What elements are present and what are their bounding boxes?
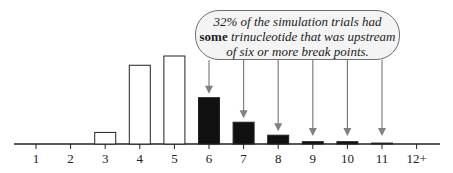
arrow-head-icon <box>309 128 317 136</box>
bar <box>372 143 393 144</box>
annotation-line-3: of six or more break points. <box>196 44 399 59</box>
bar <box>302 142 323 144</box>
bar <box>95 132 116 144</box>
annotation-emphasis: some <box>200 29 228 44</box>
x-tick-label: 5 <box>159 151 189 167</box>
x-tick-label: 2 <box>56 151 86 167</box>
x-tick-label: 4 <box>125 151 155 167</box>
x-tick-label: 3 <box>90 151 120 167</box>
x-tick-label: 1 <box>21 151 51 167</box>
arrow-head-icon <box>205 86 213 94</box>
x-tick-label: 8 <box>263 151 293 167</box>
annotation-line-1: 32% of the simulation trials had <box>196 14 399 29</box>
bar <box>337 142 358 144</box>
x-tick-label: 6 <box>194 151 224 167</box>
arrow-head-icon <box>343 128 351 136</box>
arrow-head-icon <box>240 110 248 118</box>
x-tick-label: 7 <box>229 151 259 167</box>
x-tick-label: 9 <box>298 151 328 167</box>
annotation-line-2: some trinucleotide that was upstream <box>196 29 399 44</box>
x-tick-label: 11 <box>367 151 397 167</box>
annotation-callout: 32% of the simulation trials had some tr… <box>195 10 400 60</box>
bar <box>164 56 185 144</box>
arrow-head-icon <box>274 123 282 131</box>
bar <box>199 98 220 144</box>
x-tick-label: 10 <box>332 151 362 167</box>
arrow-head-icon <box>378 128 386 136</box>
x-tick-label: 12+ <box>402 151 432 167</box>
bar <box>129 65 150 144</box>
bar <box>268 135 289 144</box>
bar <box>233 122 254 144</box>
